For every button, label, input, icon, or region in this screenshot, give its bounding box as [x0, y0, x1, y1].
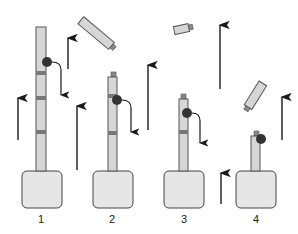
detached-segment-1: [78, 17, 117, 52]
band: [36, 130, 46, 134]
ball: [256, 134, 266, 144]
base-block: [22, 171, 62, 208]
stage-2: [93, 65, 148, 208]
cap: [181, 94, 186, 99]
curved-down-arrow: [192, 113, 200, 143]
ball: [112, 95, 122, 105]
detached-segment-2: [173, 23, 193, 35]
band: [36, 71, 46, 75]
band: [179, 130, 188, 134]
diagram-canvas: [0, 0, 298, 234]
ball: [42, 57, 52, 67]
stage-1: [18, 27, 77, 208]
band: [36, 96, 46, 100]
base-block: [164, 171, 204, 208]
stage-4: [236, 131, 276, 208]
stage-label-2: 2: [102, 213, 122, 225]
stage-label-1: 1: [31, 213, 51, 225]
base-block: [236, 171, 276, 208]
band: [108, 131, 117, 135]
curved-down-arrow: [122, 100, 131, 132]
shaft: [108, 77, 117, 171]
cap: [111, 72, 116, 77]
detached-segment-3: [242, 81, 267, 113]
ball: [182, 108, 192, 118]
base-block: [93, 171, 133, 208]
stage-label-4: 4: [246, 213, 266, 225]
curved-down-arrow: [52, 62, 61, 95]
stage-label-3: 3: [174, 213, 194, 225]
stage-3: [164, 94, 221, 208]
